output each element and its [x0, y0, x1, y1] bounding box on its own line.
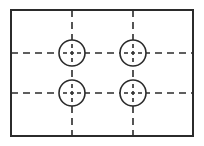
hole-bottom-right: [120, 80, 146, 106]
hole-top-left: [59, 40, 85, 66]
page-background: [0, 0, 204, 146]
hole-bottom-left: [59, 80, 85, 106]
hole-top-right: [120, 40, 146, 66]
engineering-drawing-canvas: [0, 0, 204, 146]
drawing-svg: [0, 0, 204, 146]
